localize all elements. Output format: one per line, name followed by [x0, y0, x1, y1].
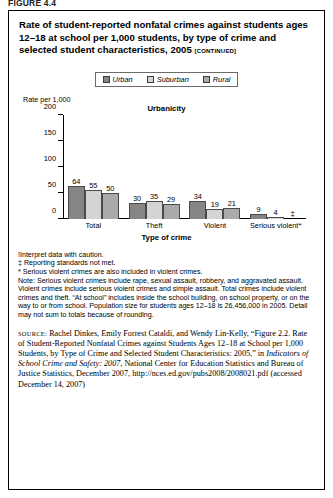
- bar-value-label: 30: [133, 194, 141, 203]
- legend-item-suburban: Suburban: [147, 75, 189, 84]
- legend-item-rural: Rural: [203, 75, 231, 84]
- bar-urban: 64: [68, 186, 85, 219]
- bar-group: 94‡: [245, 115, 306, 219]
- bar-value-label: 19: [211, 200, 219, 209]
- bar-value-label: 35: [150, 192, 158, 201]
- bar-groups: 64555030352934192194‡: [63, 115, 306, 219]
- legend-swatch-suburban: [147, 76, 154, 83]
- figure-title-continued: [CONTINUED]: [194, 48, 236, 54]
- legend-label-suburban: Suburban: [157, 75, 189, 84]
- bar-value-label: 4: [274, 208, 278, 217]
- bar-suburban: 4: [267, 217, 284, 219]
- plot-region: 050100150200 64555030352934192194‡: [63, 115, 306, 219]
- legend-swatch-rural: [203, 76, 210, 83]
- y-tick-label: 200: [44, 101, 56, 110]
- bar-group: 645550: [63, 115, 124, 219]
- bar-value-label: ‡: [290, 209, 294, 218]
- legend-item-urban: Urban: [103, 75, 133, 84]
- figure-title-text: Rate of student-reported nonfatal crimes…: [19, 19, 308, 55]
- source-tag: source:: [18, 330, 47, 337]
- legend-label-rural: Rural: [213, 75, 231, 84]
- x-axis-title: Type of crime: [17, 233, 316, 242]
- bar-suburban: 35: [146, 201, 163, 219]
- note-line-2: ‡ Reporting standards not met.: [18, 259, 315, 268]
- bar-rural: 21: [223, 208, 240, 219]
- bar-rural: 29: [163, 204, 180, 219]
- source-text-part1: Rachel Dinkes, Emily Forrest Cataldi, an…: [18, 329, 307, 358]
- x-tick-label: Serious violent*: [245, 221, 306, 230]
- y-tick-label: 50: [48, 179, 56, 188]
- bar-suburban: 55: [85, 190, 102, 219]
- bar-value-label: 29: [167, 195, 175, 204]
- bar-group: 303529: [124, 115, 185, 219]
- figure-number: FIGURE 4.4: [8, 0, 56, 8]
- bar-value-label: 64: [72, 177, 80, 186]
- figure-title: Rate of student-reported nonfatal crimes…: [19, 19, 314, 58]
- chart-subtitle: Urbanicity: [17, 104, 316, 113]
- figure-frame: Rate of student-reported nonfatal crimes…: [8, 10, 325, 490]
- figure-notes: !Interpret data with caution. ‡ Reportin…: [17, 251, 316, 320]
- note-body: Note: Serious violent crimes include rap…: [18, 277, 315, 320]
- chart-legend: Urban Suburban Rural: [95, 72, 239, 87]
- chart-legend-wrapper: Urban Suburban Rural: [17, 72, 316, 87]
- x-tick-label: Theft: [124, 221, 185, 230]
- legend-label-urban: Urban: [113, 75, 133, 84]
- bar-suburban: 19: [206, 209, 223, 219]
- bar-value-label: 21: [228, 199, 236, 208]
- chart-area: Rate per 1,000 Urbanicity 050100150200 6…: [17, 95, 316, 245]
- bar-urban: 30: [129, 203, 146, 219]
- bar-urban: 9: [250, 214, 267, 219]
- legend-swatch-urban: [103, 76, 110, 83]
- bar-group: 341921: [185, 115, 246, 219]
- note-line-1: !Interpret data with caution.: [18, 251, 315, 260]
- bar-urban: 34: [189, 201, 206, 219]
- x-axis-labels: TotalTheftViolentSerious violent*: [63, 221, 306, 230]
- note-line-3: * Serious violent crimes are also includ…: [18, 268, 315, 277]
- figure-page: FIGURE 4.4 Rate of student-reported nonf…: [0, 0, 333, 498]
- bar-rural: 50: [102, 193, 119, 219]
- y-tick-label: 100: [44, 153, 56, 162]
- y-tick-label: 0: [52, 205, 56, 214]
- bar-value-label: 9: [257, 205, 261, 214]
- x-tick-label: Violent: [185, 221, 246, 230]
- bar-value-label: 34: [194, 192, 202, 201]
- figure-source: source: Rachel Dinkes, Emily Forrest Cat…: [17, 329, 316, 390]
- y-tick-label: 150: [44, 127, 56, 136]
- bar-value-label: 55: [89, 181, 97, 190]
- x-tick-label: Total: [63, 221, 124, 230]
- bar-value-label: 50: [106, 184, 114, 193]
